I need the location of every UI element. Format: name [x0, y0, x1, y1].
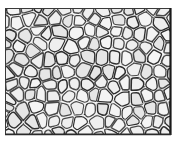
junction-speckle	[23, 91, 24, 92]
junction-speckle	[62, 79, 63, 80]
junction-speckle	[137, 16, 138, 17]
junction-speckle	[89, 123, 90, 124]
junction-speckle	[67, 78, 68, 79]
junction-speckle	[86, 104, 87, 105]
junction-speckle	[151, 74, 153, 76]
junction-speckle	[79, 12, 81, 14]
junction-speckle	[145, 27, 146, 28]
junction-speckle	[21, 13, 22, 14]
junction-speckle	[34, 98, 35, 99]
junction-speckle	[79, 50, 80, 51]
junction-speckle	[57, 79, 58, 80]
junction-speckle	[108, 114, 109, 115]
junction-speckle	[154, 17, 155, 18]
junction-speckle	[60, 66, 62, 68]
junction-speckle	[129, 105, 131, 107]
junction-speckle	[76, 131, 77, 132]
junction-speckle	[110, 32, 111, 33]
junction-speckle	[32, 112, 33, 113]
junction-speckle	[152, 99, 153, 100]
junction-speckle	[60, 102, 62, 104]
junction-speckle	[63, 77, 64, 78]
junction-speckle	[42, 12, 43, 13]
junction-speckle	[127, 73, 128, 74]
junction-speckle	[129, 77, 130, 78]
junction-speckle	[139, 27, 140, 28]
junction-speckle	[113, 36, 115, 38]
junction-speckle	[22, 15, 23, 16]
junction-speckle	[64, 130, 66, 132]
junction-speckle	[94, 63, 95, 64]
junction-speckle	[16, 75, 17, 76]
junction-speckle	[138, 77, 140, 79]
junction-speckle	[153, 66, 154, 67]
junction-speckle	[19, 85, 20, 86]
junction-speckle	[125, 72, 126, 73]
junction-speckle	[23, 25, 25, 27]
junction-speckle	[40, 14, 41, 15]
junction-speckle	[121, 106, 122, 107]
junction-speckle	[134, 61, 135, 62]
junction-speckle	[74, 74, 75, 75]
junction-speckle	[94, 80, 95, 81]
junction-speckle	[92, 131, 94, 133]
junction-speckle	[164, 115, 166, 117]
junction-speckle	[60, 24, 61, 25]
junction-speckle	[127, 68, 128, 69]
junction-speckle	[36, 87, 37, 88]
junction-speckle	[73, 117, 74, 118]
junction-speckle	[69, 102, 70, 103]
junction-speckle	[29, 59, 30, 60]
junction-speckle	[126, 127, 128, 129]
junction-speckle	[62, 100, 63, 101]
junction-speckle	[68, 29, 70, 31]
junction-speckle	[146, 11, 147, 12]
junction-speckle	[119, 36, 120, 37]
junction-speckle	[143, 82, 144, 83]
junction-speckle	[119, 132, 120, 133]
junction-speckle	[152, 16, 153, 17]
junction-speckle	[157, 113, 158, 114]
junction-speckle	[163, 17, 165, 19]
junction-speckle	[98, 37, 100, 39]
junction-speckle	[57, 81, 58, 82]
junction-speckle	[39, 68, 40, 69]
junction-speckle	[112, 26, 113, 27]
junction-speckle	[140, 118, 142, 120]
junction-speckle	[74, 69, 75, 70]
junction-speckle	[153, 116, 154, 117]
junction-speckle	[68, 27, 69, 28]
junction-speckle	[6, 65, 7, 66]
junction-speckle	[158, 62, 159, 63]
junction-speckle	[27, 89, 28, 90]
junction-speckle	[122, 90, 123, 91]
junction-speckle	[120, 38, 121, 39]
junction-speckle	[13, 53, 15, 55]
junction-speckle	[146, 55, 147, 56]
junction-speckle	[162, 90, 163, 91]
junction-speckle	[58, 89, 59, 90]
junction-speckle	[88, 123, 89, 124]
junction-speckle	[42, 50, 44, 52]
junction-speckle	[8, 111, 10, 113]
junction-speckle	[95, 65, 96, 66]
junction-speckle	[158, 31, 160, 33]
junction-speckle	[92, 65, 93, 66]
junction-speckle	[38, 70, 40, 72]
junction-speckle	[113, 78, 114, 79]
junction-speckle	[168, 102, 169, 103]
junction-speckle	[47, 16, 48, 17]
junction-speckle	[16, 39, 18, 41]
junction-speckle	[131, 89, 132, 90]
junction-speckle	[30, 130, 31, 131]
junction-speckle	[82, 114, 83, 115]
junction-speckle	[30, 59, 31, 60]
junction-speckle	[102, 74, 104, 76]
junction-speckle	[80, 53, 81, 54]
junction-speckle	[121, 52, 122, 53]
junction-speckle	[31, 26, 33, 28]
junction-speckle	[36, 14, 37, 15]
junction-speckle	[87, 91, 88, 92]
junction-speckle	[147, 61, 149, 63]
junction-speckle	[16, 107, 17, 108]
